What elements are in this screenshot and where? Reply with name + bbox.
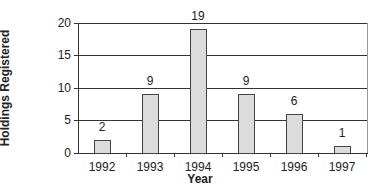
y-tick <box>74 120 78 121</box>
x-axis-line <box>78 153 368 154</box>
y-tick-label: 5 <box>51 113 71 127</box>
data-label-1996: 6 <box>279 94 309 108</box>
bar-1994 <box>190 29 207 154</box>
gridline-10 <box>78 88 367 89</box>
x-tick <box>366 153 367 157</box>
x-tick-label-1995: 1995 <box>226 160 266 174</box>
y-tick-label: 20 <box>51 16 71 30</box>
data-label-1993: 9 <box>135 74 165 88</box>
bar-1996 <box>286 114 303 154</box>
y-tick <box>74 153 78 154</box>
x-axis-title: Year <box>187 172 212 186</box>
y-tick-label: 10 <box>51 81 71 95</box>
bar-1993 <box>142 94 159 154</box>
y-axis-line <box>78 23 79 153</box>
y-tick <box>74 88 78 89</box>
x-tick <box>126 153 127 157</box>
data-label-1994: 19 <box>183 9 213 23</box>
y-axis-title: Number of Holdings Registered <box>0 23 12 153</box>
gridline-5 <box>78 120 367 121</box>
y-axis-title-line-2: Holdings Registered <box>0 23 12 153</box>
plot-area: 20 15 10 5 0 <box>78 23 368 153</box>
bar-1992 <box>94 140 111 154</box>
y-tick <box>74 55 78 56</box>
gridline-15 <box>78 55 367 56</box>
x-tick <box>318 153 319 157</box>
x-tick-label-1993: 1993 <box>130 160 170 174</box>
x-tick <box>222 153 223 157</box>
y-tick-label: 15 <box>51 48 71 62</box>
data-label-1997: 1 <box>327 126 357 140</box>
x-tick <box>174 153 175 157</box>
bar-1995 <box>238 94 255 154</box>
x-tick-label-1996: 1996 <box>274 160 314 174</box>
x-tick-label-1992: 1992 <box>82 160 122 174</box>
x-tick-label-1997: 1997 <box>322 160 362 174</box>
y-tick <box>74 23 78 24</box>
gridline-20 <box>78 23 367 24</box>
bar-1997 <box>334 146 351 154</box>
data-label-1995: 9 <box>231 74 261 88</box>
x-tick <box>270 153 271 157</box>
data-label-1992: 2 <box>87 120 117 134</box>
y-tick-label: 0 <box>51 146 71 160</box>
